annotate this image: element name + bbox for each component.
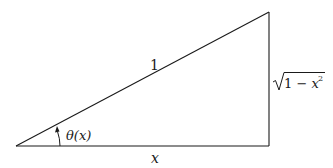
opposite-label: 1 − x 2: [273, 73, 325, 92]
base-label: x: [151, 150, 159, 166]
triangle-diagram: 1 x θ(x) 1 − x 2: [0, 0, 333, 168]
hypotenuse-edge: [16, 12, 269, 146]
hypotenuse-label: 1: [150, 57, 159, 73]
angle-arc: [58, 132, 61, 147]
radicand-text: 1 − x: [284, 76, 319, 91]
angle-label: θ(x): [66, 128, 91, 143]
exponent-text: 2: [318, 74, 323, 83]
angle-arrowhead-icon: [55, 126, 60, 133]
